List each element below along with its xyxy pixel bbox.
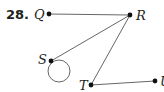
vertex-t bbox=[89, 83, 94, 88]
edge-q-r bbox=[49, 14, 130, 15]
vertex-u bbox=[153, 79, 158, 84]
vertex-label-t: T bbox=[79, 78, 89, 92]
vertex-s bbox=[49, 59, 54, 64]
vertex-label-r: R bbox=[135, 8, 146, 23]
edges-group bbox=[49, 14, 155, 85]
vertex-q bbox=[47, 12, 52, 17]
vertex-label-s: S bbox=[38, 52, 47, 67]
edge-t-u bbox=[91, 81, 155, 85]
edge-r-s bbox=[51, 15, 130, 61]
graph-diagram: 28. QRSTU bbox=[0, 0, 164, 92]
problem-number: 28. bbox=[6, 7, 29, 22]
vertex-r bbox=[128, 13, 133, 18]
vertex-label-u: U bbox=[160, 74, 164, 89]
labels-group: QRSTU bbox=[34, 7, 164, 92]
vertex-label-q: Q bbox=[34, 7, 45, 22]
edge-r-t bbox=[91, 15, 130, 85]
